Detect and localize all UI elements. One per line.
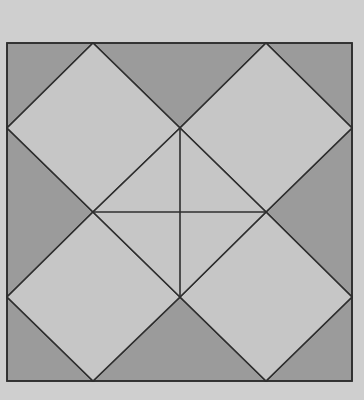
geometric-figure [0, 0, 364, 400]
quilt-square-diagram [0, 0, 364, 400]
